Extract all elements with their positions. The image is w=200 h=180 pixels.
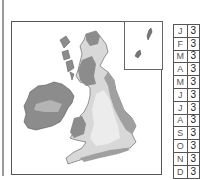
monthly-legend-table: J3 F3 M3 A3 M3 J3 J3 A3 S3 O3 N3 D3 bbox=[173, 24, 200, 179]
month-label: J bbox=[174, 101, 188, 114]
month-label: A bbox=[174, 63, 188, 76]
table-row: J3 bbox=[174, 88, 200, 101]
month-label: D bbox=[174, 165, 188, 178]
month-value: 3 bbox=[187, 101, 199, 114]
month-label: J bbox=[174, 88, 188, 101]
shetland-inset bbox=[124, 21, 163, 70]
table-row: F3 bbox=[174, 37, 200, 50]
month-label: A bbox=[174, 114, 188, 127]
table-row: J3 bbox=[174, 25, 200, 38]
month-value: 3 bbox=[187, 63, 199, 76]
month-value: 3 bbox=[187, 37, 199, 50]
table-row: O3 bbox=[174, 140, 200, 153]
shetland-islands-icon bbox=[125, 22, 162, 69]
month-value: 3 bbox=[187, 127, 199, 140]
month-value: 3 bbox=[187, 152, 199, 165]
british-isles-map bbox=[0, 0, 200, 180]
table-row: D3 bbox=[174, 165, 200, 178]
month-value: 3 bbox=[187, 88, 199, 101]
month-value: 3 bbox=[187, 114, 199, 127]
month-value: 3 bbox=[187, 140, 199, 153]
month-label: S bbox=[174, 127, 188, 140]
table-row: M3 bbox=[174, 50, 200, 63]
table-row: J3 bbox=[174, 101, 200, 114]
month-label: M bbox=[174, 50, 188, 63]
month-label: M bbox=[174, 76, 188, 89]
table-row: A3 bbox=[174, 114, 200, 127]
month-value: 3 bbox=[187, 76, 199, 89]
hebrides-islands bbox=[60, 36, 74, 80]
month-value: 3 bbox=[187, 50, 199, 63]
table-row: S3 bbox=[174, 127, 200, 140]
month-label: J bbox=[174, 25, 188, 38]
month-value: 3 bbox=[187, 25, 199, 38]
table-row: M3 bbox=[174, 76, 200, 89]
month-label: N bbox=[174, 152, 188, 165]
month-label: O bbox=[174, 140, 188, 153]
month-label: F bbox=[174, 37, 188, 50]
table-row: N3 bbox=[174, 152, 200, 165]
month-value: 3 bbox=[187, 165, 199, 178]
table-row: A3 bbox=[174, 63, 200, 76]
